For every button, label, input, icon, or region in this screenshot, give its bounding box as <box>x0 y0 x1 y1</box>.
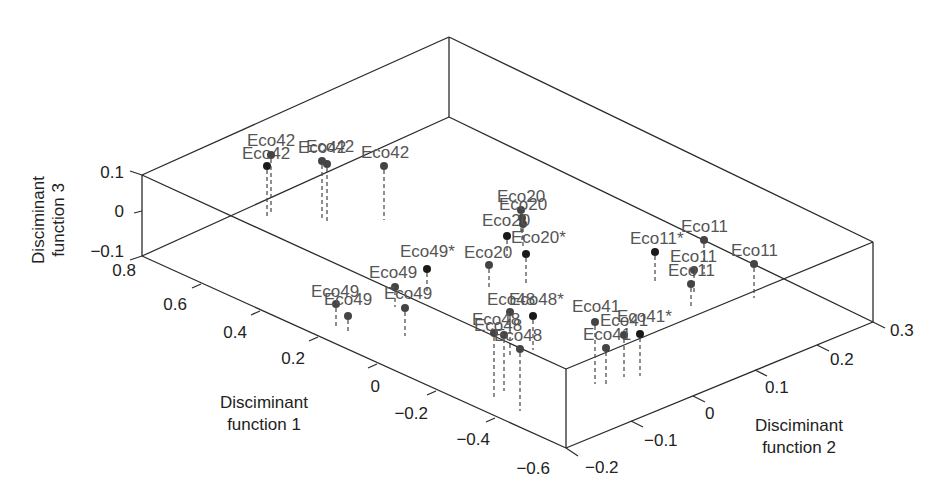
x-axis-title-line1: Disciminant <box>220 393 308 412</box>
z-tick-label: 0 <box>115 202 124 221</box>
y-axis-title-line2: function 2 <box>762 438 836 457</box>
point-label: Eco48 <box>494 326 542 345</box>
point-marker <box>503 232 511 240</box>
point-label: Eco42 <box>306 137 354 156</box>
data-points: Eco42Eco42Eco42Eco42Eco42Eco20Eco20Eco20… <box>242 131 778 411</box>
point-label: Eco11 <box>681 217 728 236</box>
y-axis: −0.2 −0.1 0 0.1 0.2 0.3 Disciminant func… <box>566 321 914 477</box>
point-marker <box>636 330 644 338</box>
point-label: Eco11 <box>731 241 778 260</box>
point-marker <box>485 261 493 269</box>
x-tick-label: 0.6 <box>163 295 187 314</box>
point-label: Eco11* <box>630 229 684 248</box>
data-point-eco42: Eco42 <box>247 131 295 214</box>
point-label: Eco49 <box>369 263 417 282</box>
x-tick-label: −0.2 <box>394 404 428 423</box>
data-point-eco20 <box>522 250 530 284</box>
point-marker <box>401 304 409 312</box>
x-tick-label: 0 <box>371 377 380 396</box>
data-point-eco20: Eco20 <box>464 243 512 289</box>
point-marker <box>750 260 758 268</box>
x-tick-label: 0.2 <box>281 349 305 368</box>
z-tick-label: 0.1 <box>100 163 124 182</box>
point-marker <box>516 345 524 353</box>
point-label: Eco48* <box>509 290 564 309</box>
point-label: Eco49 <box>384 284 432 303</box>
x-tick-label: −0.6 <box>516 459 550 478</box>
x-tick-label: 0.8 <box>112 261 136 280</box>
data-point-eco11: Eco11 <box>668 261 715 308</box>
point-label: Eco20* <box>511 228 566 247</box>
point-label: Eco20 <box>464 243 512 262</box>
y-tick-label: 0.3 <box>890 321 914 340</box>
point-marker <box>323 160 331 168</box>
y-tick-label: 0.1 <box>765 378 789 397</box>
point-marker <box>651 248 659 256</box>
discriminant-3d-scatter: 0.1 0 −0.1 Disciminant function 3 0.8 0.… <box>0 0 946 497</box>
point-marker <box>529 312 537 320</box>
point-label: Eco49 <box>324 290 372 309</box>
z-tick-label: −0.1 <box>90 242 124 261</box>
point-label: Eco41* <box>617 307 672 326</box>
point-marker <box>423 265 431 273</box>
point-marker <box>522 250 530 258</box>
data-point-eco49: Eco49 <box>324 290 372 334</box>
point-label: Eco11 <box>668 261 715 280</box>
point-marker <box>380 162 388 170</box>
point-label: Eco42 <box>361 143 409 162</box>
point-marker <box>687 280 695 288</box>
data-point-eco11: Eco11 <box>731 241 778 298</box>
point-marker <box>700 236 708 244</box>
y-tick-label: −0.1 <box>644 431 678 450</box>
point-label: Eco49* <box>400 242 455 261</box>
y-tick-label: 0 <box>705 404 714 423</box>
y-tick-label: 0.2 <box>830 350 854 369</box>
data-point-eco42: Eco42 <box>361 143 409 220</box>
point-marker <box>344 312 352 320</box>
point-label: Eco41 <box>583 325 631 344</box>
point-label: Eco42 <box>247 131 295 150</box>
y-axis-title-line1: Disciminant <box>755 416 843 435</box>
point-marker <box>263 162 271 170</box>
y-tick-label: −0.2 <box>585 458 619 477</box>
z-axis: 0.1 0 −0.1 Disciminant function 3 <box>29 163 142 264</box>
z-axis-title-line2: function 3 <box>49 183 68 257</box>
x-tick-label: 0.4 <box>223 323 247 342</box>
data-point-eco20-star: Eco20* <box>503 228 566 256</box>
point-marker <box>267 151 275 159</box>
data-point-eco48: Eco48 <box>494 326 542 411</box>
data-point-eco49: Eco49 <box>384 284 432 336</box>
z-axis-title-line1: Disciminant <box>29 176 48 264</box>
x-axis-title-line2: function 1 <box>227 415 301 434</box>
x-tick-label: −0.4 <box>456 430 490 449</box>
point-marker <box>602 344 610 352</box>
